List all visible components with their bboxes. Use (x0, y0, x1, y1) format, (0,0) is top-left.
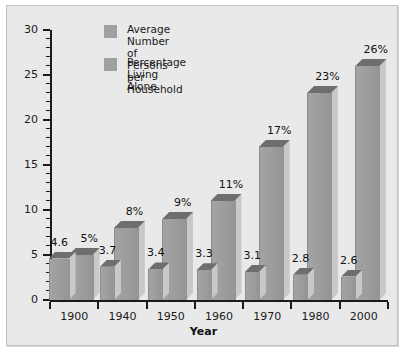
bar-value-label: 4.6 (43, 236, 76, 249)
bar-household-1950 (148, 262, 169, 300)
y-axis-tick-label: 25 (12, 68, 38, 81)
bar-side-face (235, 194, 242, 300)
x-axis-tick (339, 302, 341, 309)
y-axis-major-tick (43, 29, 50, 31)
bar-value-label: 17% (261, 124, 298, 137)
bar-front-face (293, 275, 308, 300)
bar-side-face (283, 140, 290, 300)
legend-swatch-living-alone (104, 58, 117, 71)
y-axis-major-tick (43, 164, 50, 166)
y-axis-minor-tick (46, 56, 50, 57)
bar-value-label: 11% (213, 178, 250, 191)
bar-value-label: 3.4 (142, 246, 169, 259)
y-axis-minor-tick (46, 146, 50, 147)
x-axis-tick (49, 302, 51, 309)
y-axis-minor-tick (46, 47, 50, 48)
y-axis-minor-tick (46, 155, 50, 156)
x-axis-tick-label: 1950 (147, 310, 195, 323)
legend-swatch-household (104, 25, 117, 38)
x-axis-tick (194, 302, 196, 309)
bar-side-face (69, 252, 76, 300)
x-axis-tick (146, 302, 148, 309)
y-axis-tick-label: 15 (12, 158, 38, 171)
bar-value-label: 3.7 (94, 244, 121, 257)
bar-household-1970 (245, 265, 266, 300)
bar-front-face (197, 270, 212, 300)
bar-household-1900 (49, 252, 76, 300)
bar-side-face (379, 59, 386, 300)
bar-household-1960 (197, 263, 218, 300)
x-axis-tick-label: 2000 (340, 310, 388, 323)
x-axis-tick-label: 1940 (98, 310, 146, 323)
bar-value-label: 9% (164, 196, 201, 209)
y-axis-tick-label: 5 (12, 248, 38, 261)
y-axis-major-tick (43, 209, 50, 211)
x-axis-tick-label: 1960 (195, 310, 243, 323)
y-axis-minor-tick (46, 128, 50, 129)
y-axis-major-tick (43, 119, 50, 121)
bar-side-face (331, 86, 338, 300)
y-axis-minor-tick (46, 92, 50, 93)
bar-front-face (148, 269, 163, 300)
y-axis-major-tick (43, 74, 50, 76)
legend-label-living-alone: Percentage Living Alone (127, 56, 186, 92)
bar-value-label: 3.1 (239, 249, 266, 262)
bar-value-label: 2.6 (335, 254, 362, 267)
x-axis-tick-label: 1900 (50, 310, 98, 323)
bar-household-1940 (100, 260, 121, 300)
bar-side-face (114, 260, 121, 300)
x-axis-title: Year (0, 325, 407, 338)
y-axis-minor-tick (46, 110, 50, 111)
y-axis-tick-label: 0 (12, 293, 38, 306)
y-axis-minor-tick (46, 173, 50, 174)
y-axis-minor-tick (46, 191, 50, 192)
bar-side-face (138, 221, 145, 300)
y-axis-minor-tick (46, 182, 50, 183)
x-axis-tick (242, 302, 244, 309)
y-axis-tick-label: 20 (12, 113, 38, 126)
y-axis-minor-tick (46, 200, 50, 201)
x-axis-tick (387, 302, 389, 309)
y-axis-minor-tick (46, 137, 50, 138)
bar-value-label: 8% (116, 205, 153, 218)
y-axis-minor-tick (46, 65, 50, 66)
x-axis-tick (97, 302, 99, 309)
y-axis-tick-label: 10 (12, 203, 38, 216)
bar-household-1980 (293, 268, 314, 300)
bar-front-face (341, 277, 356, 300)
x-axis-tick-label: 1970 (243, 310, 291, 323)
bar-front-face (245, 272, 260, 300)
y-axis-minor-tick (46, 38, 50, 39)
bar-chart: 302520151050 190019401950196019701980200… (0, 0, 407, 357)
y-axis-minor-tick (46, 83, 50, 84)
bar-household-2000 (341, 270, 362, 300)
x-axis-line (50, 300, 388, 302)
y-axis-minor-tick (46, 101, 50, 102)
bar-value-label: 2.8 (287, 252, 314, 265)
x-axis-tick (290, 302, 292, 309)
bar-value-label: 26% (357, 43, 394, 56)
y-axis-minor-tick (46, 227, 50, 228)
y-axis-tick-label: 30 (12, 23, 38, 36)
bar-value-label: 23% (309, 70, 346, 83)
bar-value-label: 3.3 (191, 247, 218, 260)
y-axis-minor-tick (46, 218, 50, 219)
bar-front-face (49, 259, 70, 300)
bar-front-face (100, 267, 115, 300)
x-axis-tick-label: 1980 (291, 310, 339, 323)
